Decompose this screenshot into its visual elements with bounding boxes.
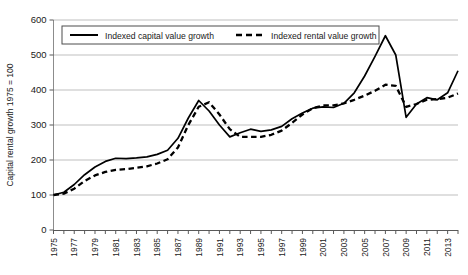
data-series-layer <box>54 36 459 195</box>
x-tick-label: 2013 <box>443 238 453 257</box>
y-tick-label: 0 <box>41 224 46 235</box>
y-tick-label: 100 <box>31 189 47 200</box>
x-tick-label: 1975 <box>49 238 59 257</box>
y-axis-title: Capital rental growth 1975 = 100 <box>5 63 15 186</box>
chart-container: 0100200300400500600 19751977197919811983… <box>0 0 468 275</box>
y-tick-label: 300 <box>31 119 47 130</box>
x-tick-label: 2011 <box>422 238 432 256</box>
x-tick-label: 1999 <box>298 238 308 257</box>
x-tick-label: 1987 <box>173 238 183 257</box>
x-tick-label: 1997 <box>277 238 287 257</box>
y-tick-label: 500 <box>31 49 47 60</box>
y-axis-ticks: 0100200300400500600 <box>31 14 54 235</box>
x-tick-label: 1989 <box>194 238 204 257</box>
x-tick-label: 1985 <box>152 238 162 257</box>
y-tick-label: 400 <box>31 84 47 95</box>
y-tick-label: 600 <box>31 14 47 25</box>
x-tick-label: 1983 <box>132 238 142 257</box>
x-tick-label: 1995 <box>256 238 266 257</box>
y-tick-label: 200 <box>31 154 47 165</box>
chart-legend: Indexed capital value growth Indexed ren… <box>62 26 379 44</box>
x-tick-label: 1977 <box>69 238 79 257</box>
series-line-rental <box>54 85 459 195</box>
x-tick-label: 2005 <box>360 238 370 257</box>
gridlines <box>54 20 459 195</box>
legend-item-label: Indexed rental value growth <box>271 31 377 41</box>
x-tick-label: 2003 <box>339 238 349 257</box>
x-tick-label: 1991 <box>215 238 225 257</box>
x-tick-label: 2007 <box>381 238 391 257</box>
x-tick-label: 2001 <box>318 238 328 257</box>
x-axis-ticks: 1975197719791981198319851987198919911993… <box>49 230 458 257</box>
x-tick-label: 1981 <box>111 238 121 257</box>
line-chart: 0100200300400500600 19751977197919811983… <box>0 0 468 275</box>
x-tick-label: 1993 <box>235 238 245 257</box>
legend-item-label: Indexed capital value growth <box>105 31 214 41</box>
x-tick-label: 2009 <box>401 238 411 257</box>
x-tick-label: 1979 <box>90 238 100 257</box>
